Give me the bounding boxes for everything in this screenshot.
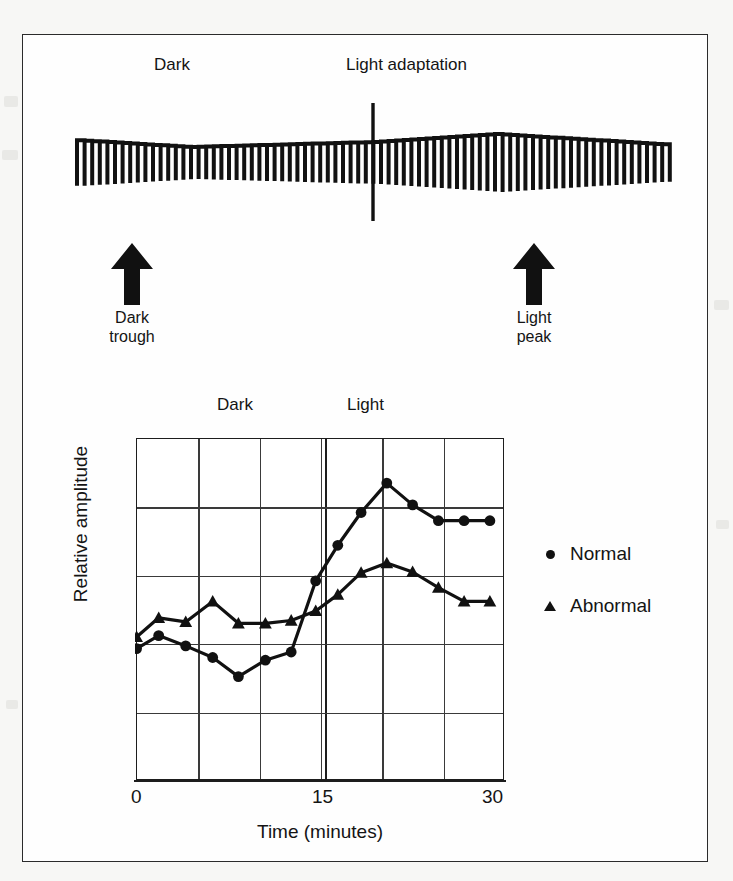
data-point-circle: [311, 576, 322, 587]
data-point-triangle: [381, 557, 394, 569]
data-point-circle: [356, 508, 367, 519]
data-point-circle: [208, 653, 219, 664]
data-point-circle: [154, 631, 165, 642]
legend-label-normal: Normal: [570, 543, 631, 565]
legend-item-normal: Normal: [539, 528, 651, 580]
data-point-circle: [233, 672, 244, 683]
chart-legend: Normal Abnormal: [539, 528, 651, 632]
data-point-circle: [333, 540, 344, 551]
legend-label-abnormal: Abnormal: [570, 595, 651, 617]
x-tick-label: 15: [312, 786, 333, 808]
circle-marker-icon: [539, 550, 561, 559]
up-arrow-icon: [109, 243, 155, 305]
figure-frame: Dark Light adaptation Dark trough Light …: [22, 34, 708, 862]
eog-waveform-panel: Dark Light adaptation Dark trough Light …: [23, 35, 709, 365]
y-axis-label: Relative amplitude: [70, 419, 92, 629]
x-tick-label: 0: [131, 786, 142, 808]
data-point-circle: [433, 516, 444, 527]
eog-waveform-trace: [73, 103, 673, 223]
plot-area: [136, 438, 504, 780]
data-point-circle: [459, 516, 470, 527]
x-tick-label: 30: [482, 786, 503, 808]
legend-item-abnormal: Abnormal: [539, 580, 651, 632]
relative-amplitude-chart-panel: Dark Light 01530 Relative amplitude Time…: [23, 365, 709, 863]
annotation-light-peak: Light peak: [511, 243, 557, 346]
data-point-circle: [382, 478, 393, 489]
x-axis-baseline: [134, 780, 506, 782]
chart-segment-label-dark: Dark: [217, 395, 253, 415]
chart-segment-label-light: Light: [347, 395, 384, 415]
up-arrow-icon: [511, 243, 557, 305]
annotation-dark-trough-line2: trough: [109, 327, 155, 346]
data-point-circle: [260, 655, 271, 666]
data-point-circle: [181, 641, 192, 652]
data-series-layer: [135, 437, 503, 779]
x-axis-label: Time (minutes): [136, 821, 504, 843]
data-point-circle: [286, 647, 297, 658]
data-point-triangle: [207, 595, 220, 607]
annotation-dark-trough-line1: Dark: [109, 308, 155, 327]
waveform-phase-label-light-adaptation: Light adaptation: [346, 55, 467, 75]
annotation-light-peak-line2: peak: [511, 327, 557, 346]
annotation-light-peak-line1: Light: [511, 308, 557, 327]
data-point-triangle: [432, 582, 445, 594]
annotation-dark-trough: Dark trough: [109, 243, 155, 346]
waveform-phase-label-dark: Dark: [154, 55, 190, 75]
data-point-circle: [408, 500, 419, 511]
triangle-marker-icon: [539, 601, 561, 611]
data-point-circle: [485, 516, 496, 527]
